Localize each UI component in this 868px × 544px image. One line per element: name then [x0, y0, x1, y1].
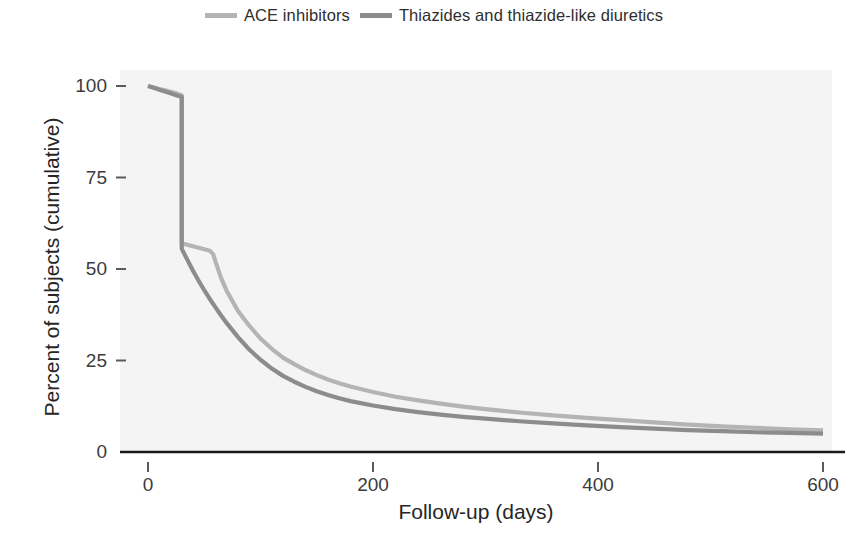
series-line-thiazides [148, 86, 823, 434]
chart-canvas [0, 0, 868, 544]
y-tick-label: 50 [45, 258, 107, 280]
x-tick-label: 400 [582, 474, 614, 496]
y-tick-label: 25 [45, 350, 107, 372]
axis-layer [116, 86, 845, 472]
series-line-ace-inhibitors [148, 86, 823, 430]
x-tick-label: 600 [807, 474, 839, 496]
x-tick-label: 200 [357, 474, 389, 496]
x-tick-label: 0 [143, 474, 154, 496]
x-axis-title: Follow-up (days) [120, 500, 832, 524]
plot-area: Percent of subjects (cumulative) Follow-… [0, 0, 868, 544]
y-tick-label: 100 [45, 75, 107, 97]
series-layer [148, 86, 823, 434]
y-tick-label: 0 [45, 441, 107, 463]
survival-curve-figure: ACE inhibitors Thiazides and thiazide-li… [0, 0, 868, 544]
y-tick-label: 75 [45, 167, 107, 189]
